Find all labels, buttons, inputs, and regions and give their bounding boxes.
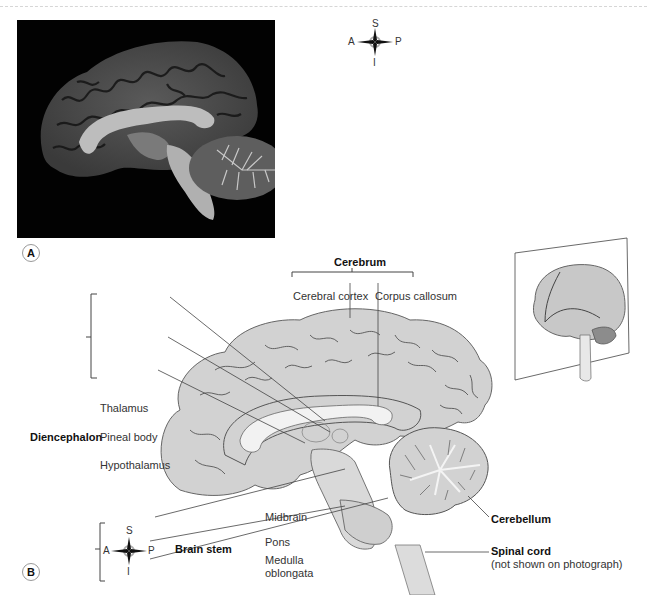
label-spinal-cord: Spinal cord [491, 545, 551, 558]
inset-brain-plane [515, 238, 629, 381]
label-medulla-line1: Medulla [265, 554, 304, 567]
label-corpus-callosum: Corpus callosum [375, 290, 457, 303]
label-brain-stem: Brain stem [175, 543, 232, 556]
compass-b-inferior: I [127, 566, 130, 577]
label-cerebellum: Cerebellum [491, 513, 551, 526]
label-cerebral-cortex: Cerebral cortex [293, 290, 368, 303]
label-pineal-body: Pineal body [100, 431, 158, 444]
panel-label-b: B [22, 563, 40, 581]
label-spinal-cord-note: (not shown on photograph) [491, 558, 622, 571]
compass-b-anterior: A [103, 545, 110, 556]
label-hypothalamus: Hypothalamus [100, 459, 170, 472]
label-midbrain: Midbrain [265, 511, 307, 524]
label-cerebrum: Cerebrum [334, 256, 386, 269]
compass-b-posterior: P [148, 545, 155, 556]
label-medulla-line2: oblongata [265, 567, 313, 580]
label-thalamus: Thalamus [100, 402, 148, 415]
compass-b-superior: S [126, 525, 133, 536]
label-pons: Pons [265, 536, 290, 549]
label-diencephalon: Diencephalon [30, 431, 102, 444]
